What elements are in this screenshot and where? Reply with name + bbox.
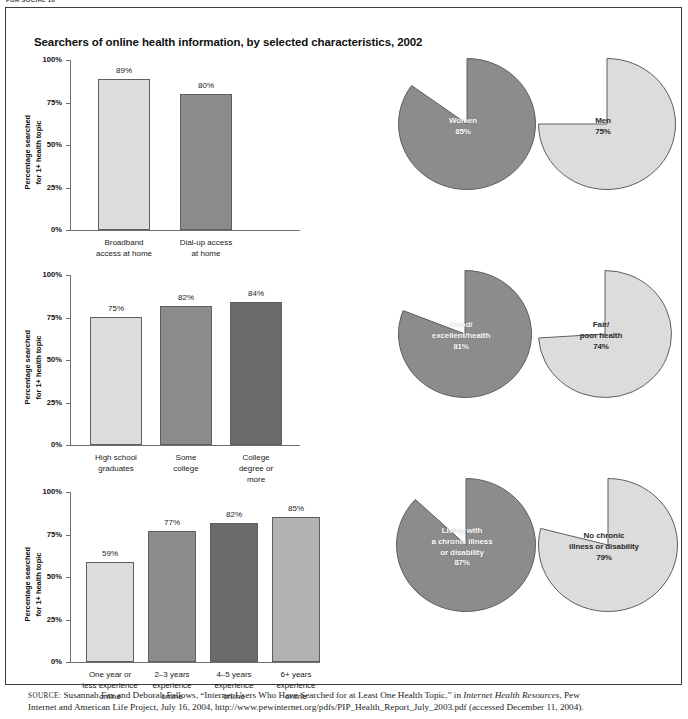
y-axis-tick [66, 275, 70, 276]
y-axis-tick-label: 50% [26, 140, 62, 149]
pie-slice-label: Women 85% [403, 116, 523, 138]
x-axis-category-label: College degree or more [214, 453, 298, 485]
y-axis-tick-label: 0% [26, 225, 62, 234]
y-axis-tick [66, 188, 70, 189]
y-axis-tick-label: 25% [26, 183, 62, 192]
bar [98, 79, 150, 230]
bar [180, 94, 232, 230]
bar-value-label: 80% [170, 81, 242, 90]
bar [90, 317, 142, 445]
pie-chart-gender-slice-2: Men 75% [538, 58, 676, 190]
y-axis-tick-label: 25% [26, 615, 62, 624]
y-axis-line [70, 492, 71, 662]
bar-value-label: 82% [200, 510, 268, 519]
y-axis-tick [66, 145, 70, 146]
y-axis-tick [66, 535, 70, 536]
y-axis-tick-label: 50% [26, 355, 62, 364]
y-axis-tick [66, 577, 70, 578]
y-axis-tick [66, 103, 70, 104]
pie-slice-label: Fair/ poor health 74% [541, 320, 661, 352]
x-axis-category-label: Dial-up access at home [164, 238, 248, 260]
y-axis-tick-label: 100% [26, 55, 62, 64]
source-note-line-1: SOURCE: Susannah Fax and Deborah Fallows… [28, 690, 673, 702]
pie-chart-gender-slice-1: Women 85% [398, 58, 536, 190]
running-head: FOR SOCIAL 10 [6, 0, 55, 3]
y-axis-tick-label: 100% [26, 270, 62, 279]
y-axis-label: Percentage searched for 1+ health topic [22, 91, 44, 213]
y-axis-label: Percentage searched for 1+ health topic [22, 523, 44, 645]
x-axis-category-label: Broadband access at home [82, 238, 166, 260]
y-axis-line [70, 60, 71, 230]
bar-value-label: 85% [262, 504, 330, 513]
y-axis-tick [66, 492, 70, 493]
bar-chart-online-experience: Percentage searched for 1+ health topic1… [0, 492, 370, 719]
y-axis-tick-label: 50% [26, 572, 62, 581]
pie-chart-health-status-slice-1: Good/ excellent/health 81% [398, 270, 532, 398]
y-axis-tick [66, 360, 70, 361]
y-axis-tick-label: 100% [26, 487, 62, 496]
bar [230, 302, 282, 445]
y-axis-tick [66, 230, 70, 231]
pie-chart-chronic-illness-slice-1: Living with a chronic illness or disabil… [396, 478, 536, 612]
bar [210, 523, 258, 662]
y-axis-tick [66, 662, 70, 663]
source-label: SOURCE: [28, 692, 61, 700]
y-axis-tick-label: 0% [26, 657, 62, 666]
y-axis-tick-label: 25% [26, 398, 62, 407]
bar [160, 306, 212, 445]
pie-slice-label: Men 75% [543, 116, 663, 138]
y-axis-line [70, 275, 71, 445]
bar-chart-internet-access: Percentage searched for 1+ health topic1… [0, 60, 370, 290]
bar-value-label: 89% [88, 66, 160, 75]
x-axis-line [70, 445, 300, 446]
pie-chart-health-status-slice-2: Fair/ poor health 74% [538, 270, 672, 398]
y-axis-tick [66, 60, 70, 61]
bar-value-label: 59% [76, 549, 144, 558]
y-axis-tick-label: 0% [26, 440, 62, 449]
source-publication-title: Internet Health Resources [463, 690, 559, 700]
y-axis-tick-label: 75% [26, 98, 62, 107]
bar-chart-education: Percentage searched for 1+ health topic1… [0, 275, 370, 505]
bar [86, 562, 134, 662]
source-text-b: , Pew [559, 690, 579, 700]
bar-value-label: 82% [150, 293, 222, 302]
pie-chart-chronic-illness-slice-2: No chronic illness or disability 79% [538, 478, 678, 612]
x-axis-line [70, 230, 300, 231]
source-note-line-2: Internet and American Life Project, July… [28, 702, 673, 719]
bar [272, 517, 320, 662]
y-axis-label: Percentage searched for 1+ health topic [22, 306, 44, 428]
bar [148, 531, 196, 662]
y-axis-tick [66, 445, 70, 446]
y-axis-tick-label: 75% [26, 530, 62, 539]
pie-slice-label: Living with a chronic illness or disabil… [402, 526, 522, 569]
y-axis-tick [66, 620, 70, 621]
figure-title: Searchers of online health information, … [34, 36, 422, 48]
bar-value-label: 84% [220, 289, 292, 298]
y-axis-tick [66, 403, 70, 404]
y-axis-tick-label: 75% [26, 313, 62, 322]
y-axis-tick [66, 318, 70, 319]
pie-slice-label: Good/ excellent/health 81% [401, 320, 521, 352]
x-axis-line [70, 662, 320, 663]
source-text-a: Susannah Fax and Deborah Fallows, “Inter… [61, 690, 463, 700]
figure-page: FOR SOCIAL 10 Searchers of online health… [0, 0, 688, 719]
pie-slice-label: No chronic illness or disability 79% [544, 531, 664, 563]
bar-value-label: 77% [138, 518, 206, 527]
bar-value-label: 75% [80, 304, 152, 313]
